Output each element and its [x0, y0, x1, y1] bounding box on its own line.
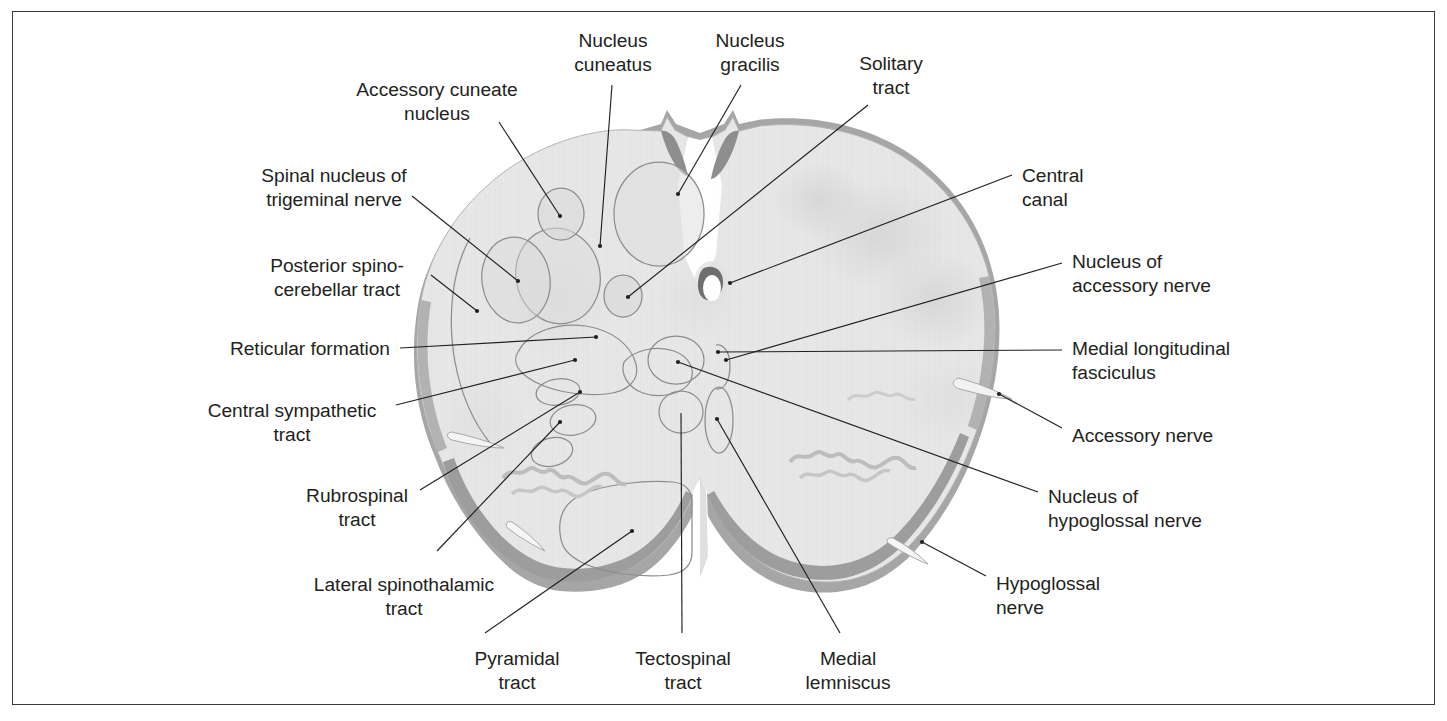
label-posterior-spinocerebellar: Posterior spino- cerebellar tract: [270, 254, 404, 301]
figure-page: Nucleus cuneatusNucleus gracilisSolitary…: [0, 0, 1447, 721]
label-nucleus-hypoglossal-nerve: Nucleus of hypoglossal nerve: [1048, 485, 1202, 532]
central-canal-group: [694, 261, 728, 305]
label-accessory-cuneate-nucleus: Accessory cuneate nucleus: [356, 78, 517, 125]
label-pyramidal-tract: Pyramidal tract: [475, 647, 560, 694]
label-medial-longitudinal-fasciculus: Medial longitudinal fasciculus: [1072, 337, 1230, 384]
label-nucleus-accessory-nerve: Nucleus of accessory nerve: [1072, 250, 1211, 297]
label-accessory-nerve: Accessory nerve: [1072, 424, 1213, 448]
label-solitary-tract: Solitary tract: [859, 52, 923, 99]
label-nucleus-cuneatus: Nucleus cuneatus: [574, 29, 651, 76]
label-rubrospinal-tract: Rubrospinal tract: [306, 484, 408, 531]
label-tectospinal-tract: Tectospinal tract: [635, 647, 730, 694]
leader-accessory-nerve: [999, 394, 1062, 428]
label-lateral-spinothalamic-tract: Lateral spinothalamic tract: [314, 573, 494, 620]
label-nucleus-gracilis: Nucleus gracilis: [716, 29, 785, 76]
label-hypoglossal-nerve: Hypoglossal nerve: [996, 572, 1100, 619]
central-canal-lumen: [703, 275, 721, 301]
solitary-tract-outline: [604, 275, 642, 317]
label-reticular-formation: Reticular formation: [0, 337, 390, 361]
accessory-cuneate-nucleus-outline: [538, 188, 584, 240]
nucleus-gracilis-outline: [614, 162, 704, 266]
label-central-sympathetic-tract: Central sympathetic tract: [208, 399, 377, 446]
leader-hypoglossal-nerve: [922, 542, 986, 576]
label-spinal-nucleus-trigeminal: Spinal nucleus of trigeminal nerve: [261, 164, 406, 211]
label-medial-lemniscus: Medial lemniscus: [806, 647, 891, 694]
label-central-canal: Central canal: [1022, 164, 1084, 211]
